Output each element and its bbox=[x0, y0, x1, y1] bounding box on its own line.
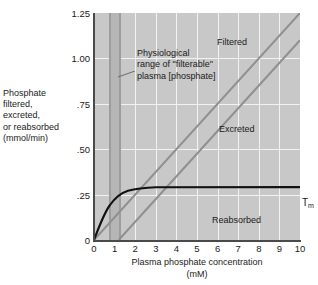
y-axis-title-line-1: Phosphate bbox=[3, 88, 85, 99]
annotation-line-1: Physiological bbox=[137, 48, 245, 59]
x-tick-label-7: 7 bbox=[229, 244, 247, 254]
phosphate-titration-chart: Phosphate filtered, excreted, or reabsor… bbox=[0, 0, 318, 285]
x-tick-label-0: 0 bbox=[85, 244, 103, 254]
x-tick-label-2: 2 bbox=[126, 244, 144, 254]
y-tick-label-1.25: 1.25 bbox=[30, 9, 90, 19]
series-label-excreted: Excreted bbox=[219, 124, 255, 134]
y-axis-title: Phosphate filtered, excreted, or reabsor… bbox=[3, 88, 85, 144]
x-axis-title-text: Plasma phosphate concentration bbox=[94, 257, 300, 269]
series-label-reabsorbed: Reabsorbed bbox=[212, 215, 261, 225]
y-axis-line bbox=[93, 13, 95, 241]
x-tick-label-6: 6 bbox=[209, 244, 227, 254]
y-tick-label-0.25: .25 bbox=[30, 191, 90, 201]
tm-label: Tm bbox=[302, 198, 314, 209]
x-tick-label-5: 5 bbox=[188, 244, 206, 254]
x-axis-title-units: (mM) bbox=[94, 269, 300, 281]
annotation-leader-line-icon bbox=[118, 71, 135, 78]
annotation-line-2: range of "filterable" bbox=[137, 59, 245, 70]
x-tick-label-3: 3 bbox=[147, 244, 165, 254]
x-tick-label-9: 9 bbox=[270, 244, 288, 254]
y-axis-title-line-5: (mmol/min) bbox=[3, 133, 85, 144]
x-tick-label-8: 8 bbox=[250, 244, 268, 254]
y-tick-label-0: 0 bbox=[30, 236, 90, 246]
tm-label-subscript: m bbox=[308, 202, 314, 209]
x-axis-line bbox=[93, 240, 301, 242]
y-axis-title-line-3: excreted, bbox=[3, 110, 85, 121]
y-tick-label-0.50: .50 bbox=[30, 145, 90, 155]
x-axis-title: Plasma phosphate concentration (mM) bbox=[94, 257, 300, 280]
x-tick-label-4: 4 bbox=[167, 244, 185, 254]
y-axis-title-line-4: or reabsorbed bbox=[3, 122, 85, 133]
x-tick-label-10: 10 bbox=[291, 244, 309, 254]
y-tick-label-0.75: .75 bbox=[30, 100, 90, 110]
series-label-filtered: Filtered bbox=[217, 37, 247, 47]
annotation-line-3: plasma [phosphate] bbox=[137, 71, 245, 82]
x-tick-label-1: 1 bbox=[106, 244, 124, 254]
annotation-physiological-range: Physiological range of "filterable" plas… bbox=[137, 48, 245, 82]
y-tick-label-1.00: 1.00 bbox=[30, 54, 90, 64]
